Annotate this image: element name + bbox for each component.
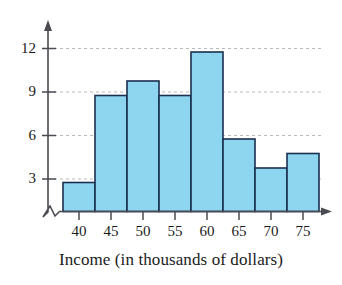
y-tick-label-6: 6: [6, 128, 36, 143]
x-tick-label-65: 65: [224, 224, 254, 239]
y-tick-label-9: 9: [6, 84, 36, 99]
bar-40: [63, 183, 95, 212]
y-tick-label-3: 3: [6, 171, 36, 186]
x-tick-label-40: 40: [64, 224, 94, 239]
bar-50: [127, 81, 159, 212]
x-axis-ticks: [79, 212, 303, 221]
x-tick-label-60: 60: [192, 224, 222, 239]
bar-65: [223, 139, 255, 212]
x-tick-label-50: 50: [128, 224, 158, 239]
x-tick-label-55: 55: [160, 224, 190, 239]
bar-45: [95, 96, 127, 212]
bar-60: [191, 52, 223, 212]
y-axis-ticks: [42, 49, 56, 180]
chart-plot-area: [0, 0, 342, 285]
bar-75: [287, 154, 319, 212]
y-axis-arrow: [44, 20, 52, 31]
bar-55: [159, 96, 191, 212]
x-tick-label-45: 45: [96, 224, 126, 239]
x-tick-label-75: 75: [288, 224, 318, 239]
x-axis-arrow: [321, 208, 332, 216]
bars: [63, 52, 319, 212]
x-axis-title: Income (in thousands of dollars): [0, 250, 342, 270]
histogram-figure: 12 9 6 3 40 45 50 55 60 65 70 75 Income …: [0, 0, 342, 285]
x-tick-label-70: 70: [256, 224, 286, 239]
y-tick-label-12: 12: [6, 41, 36, 56]
bar-70: [255, 168, 287, 212]
axis-break-zigzag: [43, 206, 60, 217]
